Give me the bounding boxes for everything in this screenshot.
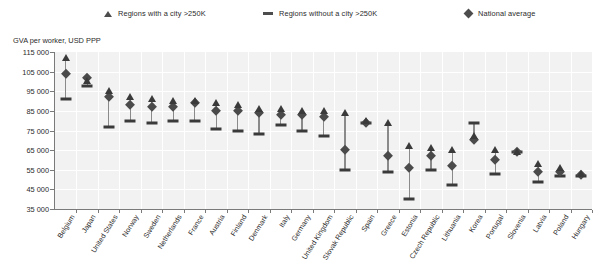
x-axis-tick bbox=[291, 210, 292, 213]
x-axis-category-label: Slovenia bbox=[505, 213, 527, 241]
y-axis-tick bbox=[50, 209, 54, 210]
x-axis-category-label: Finland bbox=[228, 213, 248, 238]
x-axis-tick bbox=[442, 210, 443, 213]
plot-area: 115 000105 00095 00085 00075 00065 00055… bbox=[0, 0, 607, 272]
marker-dash-regions-without-city bbox=[533, 180, 544, 183]
x-axis-tick bbox=[571, 210, 572, 213]
vertical-gridline bbox=[184, 52, 185, 209]
marker-dash-regions-without-city bbox=[232, 129, 243, 132]
y-axis-tick-label: 65 000 bbox=[26, 146, 49, 155]
vertical-gridline bbox=[248, 52, 249, 209]
marker-connector bbox=[387, 123, 388, 172]
vertical-gridline bbox=[141, 52, 142, 209]
gridline bbox=[55, 72, 592, 73]
marker-triangle-regions-with-city bbox=[341, 109, 349, 116]
marker-dash-regions-without-city bbox=[425, 168, 436, 171]
x-axis-tick bbox=[141, 210, 142, 213]
marker-triangle-regions-with-city bbox=[191, 97, 199, 104]
vertical-gridline bbox=[485, 52, 486, 209]
y-axis-tick bbox=[50, 52, 54, 53]
x-axis-line bbox=[54, 209, 592, 210]
marker-dash-regions-without-city bbox=[211, 127, 222, 130]
x-axis-category-label: Belgium bbox=[55, 213, 76, 240]
marker-dash-regions-without-city bbox=[297, 129, 308, 132]
vertical-gridline bbox=[442, 52, 443, 209]
x-axis-category-label: Lithuania bbox=[440, 213, 463, 243]
marker-triangle-regions-with-city bbox=[470, 132, 478, 139]
y-axis-tick-label: 75 000 bbox=[26, 126, 49, 135]
x-axis-tick bbox=[205, 210, 206, 213]
marker-triangle-regions-with-city bbox=[405, 142, 413, 149]
x-axis-category-label: Spain bbox=[360, 213, 377, 233]
x-axis-tick bbox=[227, 210, 228, 213]
marker-dash-regions-without-city bbox=[146, 121, 157, 124]
marker-triangle-regions-with-city bbox=[277, 105, 285, 112]
vertical-gridline bbox=[291, 52, 292, 209]
x-axis-tick bbox=[356, 210, 357, 213]
gridline bbox=[55, 170, 592, 171]
x-axis-category-label: Korea bbox=[467, 213, 485, 234]
vertical-gridline bbox=[119, 52, 120, 209]
marker-dash-regions-without-city bbox=[447, 184, 458, 187]
marker-triangle-regions-with-city bbox=[169, 97, 177, 104]
marker-dash-regions-without-city bbox=[318, 135, 329, 138]
vertical-gridline bbox=[76, 52, 77, 209]
y-axis-line bbox=[54, 52, 55, 210]
x-axis-tick bbox=[420, 210, 421, 213]
gridline bbox=[55, 91, 592, 92]
marker-dash-regions-without-city bbox=[125, 119, 136, 122]
gridline bbox=[55, 189, 592, 190]
x-axis-category-label: Italy bbox=[277, 213, 292, 229]
vertical-gridline bbox=[571, 52, 572, 209]
marker-dash-regions-without-city bbox=[168, 119, 179, 122]
marker-triangle-regions-with-city bbox=[126, 93, 134, 100]
x-axis-tick bbox=[248, 210, 249, 213]
x-axis-tick bbox=[506, 210, 507, 213]
vertical-gridline bbox=[270, 52, 271, 209]
x-axis-category-label: Portugal bbox=[484, 213, 506, 240]
vertical-gridline bbox=[98, 52, 99, 209]
x-axis-tick bbox=[549, 210, 550, 213]
y-axis-labels: 115 000105 00095 00085 00075 00065 00055… bbox=[0, 0, 49, 272]
vertical-gridline bbox=[506, 52, 507, 209]
vertical-gridline bbox=[227, 52, 228, 209]
x-axis-tick bbox=[313, 210, 314, 213]
marker-dash-regions-without-city bbox=[254, 133, 265, 136]
y-axis-tick-label: 55 000 bbox=[26, 165, 49, 174]
marker-dash-regions-without-city bbox=[382, 170, 393, 173]
vertical-gridline bbox=[162, 52, 163, 209]
vertical-gridline bbox=[313, 52, 314, 209]
vertical-gridline bbox=[377, 52, 378, 209]
marker-triangle-regions-with-city bbox=[298, 107, 306, 114]
y-axis-tick-label: 45 000 bbox=[26, 185, 49, 194]
marker-triangle-regions-with-city bbox=[320, 107, 328, 114]
vertical-gridline bbox=[334, 52, 335, 209]
x-axis-category-label: Japan bbox=[80, 213, 98, 234]
y-axis-tick-label: 85 000 bbox=[26, 106, 49, 115]
x-axis-category-label: Estonia bbox=[400, 213, 420, 238]
x-axis-tick bbox=[162, 210, 163, 213]
vertical-gridline bbox=[356, 52, 357, 209]
vertical-gridline bbox=[399, 52, 400, 209]
marker-dash-regions-without-city bbox=[103, 125, 114, 128]
x-axis-category-label: Austria bbox=[207, 213, 226, 237]
marker-triangle-regions-with-city bbox=[513, 148, 521, 155]
marker-triangle-regions-with-city bbox=[362, 117, 370, 124]
x-axis-tick bbox=[528, 210, 529, 213]
x-axis-category-label: Poland bbox=[551, 213, 570, 237]
x-axis-tick bbox=[119, 210, 120, 213]
marker-triangle-regions-with-city bbox=[62, 54, 70, 61]
x-axis-tick bbox=[184, 210, 185, 213]
y-axis-tick-label: 105 000 bbox=[22, 67, 49, 76]
vertical-gridline bbox=[549, 52, 550, 209]
x-axis-tick bbox=[98, 210, 99, 213]
x-axis-tick bbox=[270, 210, 271, 213]
y-axis-tick bbox=[50, 189, 54, 190]
marker-triangle-regions-with-city bbox=[384, 119, 392, 126]
x-axis-category-label: Germany bbox=[289, 213, 312, 243]
y-axis-tick bbox=[50, 72, 54, 73]
marker-dash-regions-without-city bbox=[490, 172, 501, 175]
x-axis-category-label: Hungary bbox=[570, 213, 592, 241]
y-axis-tick-label: 35 000 bbox=[26, 205, 49, 214]
marker-dash-regions-without-city bbox=[189, 119, 200, 122]
